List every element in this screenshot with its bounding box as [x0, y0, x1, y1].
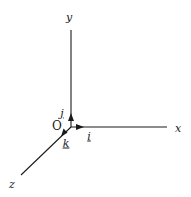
y-axis-label: y [66, 12, 72, 23]
coordinate-axes-diagram: y x z O j i k [0, 0, 191, 197]
origin-label: O [52, 120, 62, 132]
i-arrow-icon [76, 124, 84, 130]
axes-drawing [0, 0, 191, 197]
j-arrow-icon [68, 113, 74, 121]
z-axis-label: z [9, 179, 15, 190]
unit-vector-k-label: k [63, 138, 70, 149]
x-axis-label: x [175, 123, 181, 134]
unit-vector-j-label: j [60, 108, 63, 119]
unit-vector-i-label: i [87, 131, 91, 142]
